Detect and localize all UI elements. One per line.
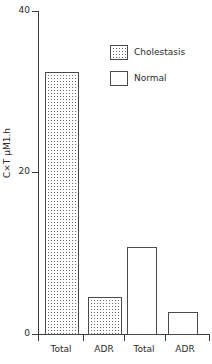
chart-legend: Cholestasis Normal bbox=[110, 42, 185, 94]
x-tick-1 bbox=[83, 335, 84, 341]
bar-total-normal bbox=[127, 247, 157, 335]
y-tick-label-20: 20 bbox=[0, 167, 30, 176]
x-axis-label-adr-normal: ADR bbox=[162, 345, 208, 354]
legend-item-normal: Normal bbox=[110, 68, 185, 88]
y-tick-label-40: 40 bbox=[0, 6, 30, 15]
legend-swatch-cholestasis bbox=[110, 45, 128, 60]
x-tick-0 bbox=[38, 335, 39, 341]
bar-adr-cholestasis bbox=[88, 297, 122, 335]
x-axis-label-total-cholestasis: Total bbox=[38, 345, 84, 354]
bar-chart-figure: C×T µM1.h 40 20 0 Total ADR Total ADR Ch… bbox=[0, 0, 212, 364]
legend-label-cholestasis: Cholestasis bbox=[134, 48, 185, 57]
legend-item-cholestasis: Cholestasis bbox=[110, 42, 185, 62]
x-tick-4 bbox=[209, 335, 210, 341]
bar-adr-normal bbox=[168, 312, 198, 335]
x-tick-2 bbox=[124, 335, 125, 341]
x-tick-3 bbox=[165, 335, 166, 341]
bar-total-cholestasis bbox=[45, 72, 79, 335]
y-tick-20 bbox=[32, 172, 38, 173]
legend-swatch-normal bbox=[110, 71, 128, 86]
y-axis-line bbox=[38, 11, 39, 335]
y-tick-40 bbox=[32, 11, 38, 12]
legend-label-normal: Normal bbox=[134, 74, 167, 83]
y-tick-label-0: 0 bbox=[0, 329, 30, 338]
x-axis-label-total-normal: Total bbox=[121, 345, 167, 354]
y-axis-title: C×T µM1.h bbox=[2, 118, 12, 188]
